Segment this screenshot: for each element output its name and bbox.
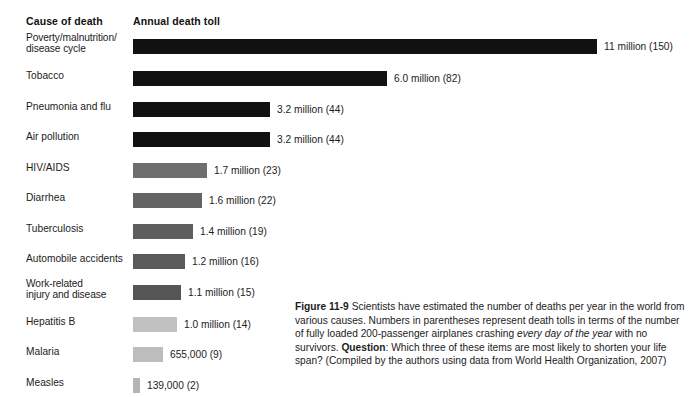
- bar-value-label: 1.2 million (16): [192, 254, 259, 269]
- bar-container: [133, 317, 177, 332]
- bar-category-label: Poverty/malnutrition/ disease cycle: [26, 32, 130, 55]
- bar-category-label: HIV/AIDS: [26, 162, 130, 173]
- bar-container: [133, 132, 270, 147]
- bar-value-label: 139,000 (2): [147, 378, 199, 393]
- bar: [133, 132, 270, 147]
- bar-value-label: 1.4 million (19): [200, 224, 267, 239]
- caption-question-label: Question: [341, 342, 385, 353]
- bar-container: [133, 224, 193, 239]
- bar-value-label: 3.2 million (44): [277, 132, 344, 147]
- bar-container: [133, 102, 270, 117]
- bar-category-label: Work-related injury and disease: [26, 278, 130, 301]
- bar: [133, 254, 185, 269]
- bar-container: [133, 378, 140, 393]
- bar-category-label: Air pollution: [26, 131, 130, 142]
- bar-category-label: Tobacco: [26, 70, 130, 81]
- column-header-annual-death-toll: Annual death toll: [133, 15, 220, 27]
- bar-container: [133, 39, 597, 54]
- bar-value-label: 3.2 million (44): [277, 102, 344, 117]
- bar-value-label: 1.7 million (23): [214, 163, 281, 178]
- bar-category-label: Pneumonia and flu: [26, 101, 130, 112]
- bar-container: [133, 71, 387, 86]
- bar: [133, 378, 140, 393]
- bar-value-label: 1.6 million (22): [209, 193, 276, 208]
- bar: [133, 317, 177, 332]
- figure-caption: Figure 11-9 Scientists have estimated th…: [295, 300, 690, 368]
- bar-category-label: Tuberculosis: [26, 223, 130, 234]
- bar-value-label: 11 million (150): [604, 39, 673, 54]
- bar-value-label: 1.0 million (14): [184, 317, 251, 332]
- bar-container: [133, 163, 207, 178]
- caption-emphasis: every day of the year: [517, 328, 612, 339]
- bar: [133, 224, 193, 239]
- bar-category-label: Diarrhea: [26, 192, 130, 203]
- bar-container: [133, 254, 185, 269]
- bar-container: [133, 347, 163, 362]
- bar-value-label: 1.1 million (15): [188, 285, 255, 300]
- bar-category-label: Automobile accidents: [26, 253, 130, 264]
- bar-category-label: Malaria: [26, 346, 130, 357]
- bar-value-label: 655,000 (9): [170, 347, 222, 362]
- bar-category-label: Hepatitis B: [26, 316, 130, 327]
- caption-figure-number: Figure 11-9: [295, 301, 349, 312]
- bar-category-label: Measles: [26, 377, 130, 388]
- bar: [133, 163, 207, 178]
- bar-container: [133, 193, 202, 208]
- bar: [133, 39, 597, 54]
- bar: [133, 193, 202, 208]
- bar-value-label: 6.0 million (82): [394, 71, 461, 86]
- column-header-cause-of-death: Cause of death: [26, 15, 103, 27]
- bar-container: [133, 285, 181, 300]
- bar: [133, 71, 387, 86]
- bar: [133, 347, 163, 362]
- bar: [133, 285, 181, 300]
- bar: [133, 102, 270, 117]
